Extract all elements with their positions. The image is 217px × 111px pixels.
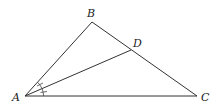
segment-bc xyxy=(92,22,197,96)
geometry-diagram: A B D C xyxy=(0,0,217,111)
label-a: A xyxy=(11,91,20,104)
label-d: D xyxy=(132,37,142,50)
triangle-figure: A B D C xyxy=(0,0,217,111)
segment-ad-bisector xyxy=(25,50,131,96)
label-c: C xyxy=(201,91,210,104)
tick-mark-dac-icon xyxy=(41,92,48,93)
segment-ab xyxy=(25,22,92,96)
label-b: B xyxy=(86,7,95,20)
